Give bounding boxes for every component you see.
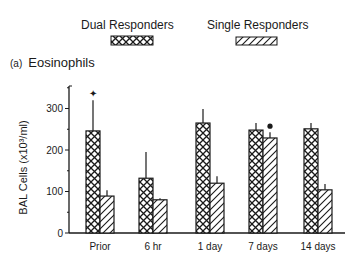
x-tick-label: 14 days [300, 241, 335, 252]
bar-dual [196, 123, 210, 233]
y-tick-label: 100 [46, 186, 63, 197]
bar-single [100, 196, 114, 233]
significance-star-icon: ✦ [89, 88, 97, 99]
bar-dual [86, 131, 100, 233]
bar-dual [249, 130, 263, 233]
bar-single [210, 183, 224, 233]
legend-swatch-dual [111, 36, 153, 45]
y-tick-label: 300 [46, 103, 63, 114]
bar-dual [139, 178, 153, 233]
bar-single [318, 190, 332, 233]
bar-single [153, 200, 167, 233]
significance-dot-icon [267, 124, 272, 129]
x-tick-label: 1 day [198, 241, 222, 252]
y-axis-title: BAL Cells (x10³/ml) [17, 120, 29, 214]
y-tick-label: 0 [57, 228, 63, 239]
y-tick-label: 200 [46, 145, 63, 156]
legend-swatch-single [236, 37, 277, 45]
x-tick-label: 7 days [248, 241, 277, 252]
bar-chart: 0100200300BAL Cells (x10³/ml)Prior6 hr1 … [0, 0, 364, 268]
plot-area: 0100200300BAL Cells (x10³/ml)Prior6 hr1 … [17, 86, 345, 252]
x-tick-label: Prior [89, 241, 111, 252]
x-tick-label: 6 hr [144, 241, 162, 252]
bar-single [263, 138, 277, 233]
bar-dual [304, 129, 318, 233]
